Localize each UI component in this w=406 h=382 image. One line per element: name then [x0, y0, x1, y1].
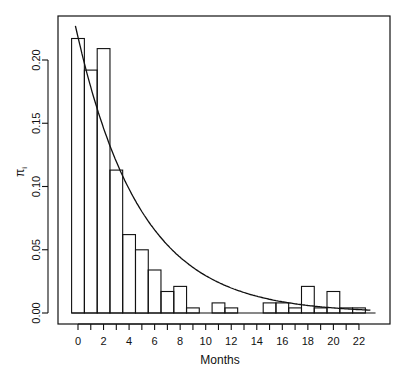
x-tick-label: 10: [200, 335, 212, 347]
y-tick-label: 0.20: [30, 49, 42, 70]
x-tick-label: 0: [75, 335, 81, 347]
y-axis-label: πi: [13, 167, 29, 177]
histogram-bar: [314, 308, 327, 313]
y-tick-label: 0.05: [30, 239, 42, 260]
y-axis: 0.000.050.100.150.20: [30, 49, 48, 323]
x-tick-label: 8: [177, 335, 183, 347]
histogram-bar: [148, 270, 161, 313]
histogram-bar: [110, 170, 123, 313]
histogram-bar: [289, 308, 302, 313]
x-tick-label: 4: [126, 335, 132, 347]
x-tick-label: 12: [225, 335, 237, 347]
histogram-bar: [72, 39, 85, 314]
histogram-bar: [327, 292, 340, 314]
histogram-bar: [302, 286, 315, 313]
histogram-bar: [123, 235, 136, 313]
histogram-bar: [187, 308, 200, 313]
bars-group: [72, 39, 366, 314]
x-tick-label: 2: [100, 335, 106, 347]
histogram-bar: [225, 308, 238, 313]
histogram-bar: [136, 250, 149, 313]
y-tick-label: 0.00: [30, 302, 42, 323]
x-tick-label: 16: [276, 335, 288, 347]
x-tick-label: 14: [251, 335, 263, 347]
histogram-bar: [161, 292, 174, 314]
histogram-bar: [84, 70, 97, 313]
x-axis: 0246810121416182022: [75, 324, 365, 347]
y-tick-label: 0.10: [30, 176, 42, 197]
x-tick-label: 18: [302, 335, 314, 347]
plot-frame: [58, 16, 390, 324]
x-tick-label: 20: [327, 335, 339, 347]
y-tick-label: 0.15: [30, 113, 42, 134]
histogram-bar: [97, 49, 110, 313]
histogram-bar: [276, 303, 289, 313]
histogram-bar: [212, 303, 225, 313]
svg-text:πi: πi: [13, 167, 29, 177]
fitted-curve: [75, 26, 370, 310]
x-axis-label: Months: [200, 353, 239, 367]
histogram-bar: [174, 286, 187, 313]
x-tick-label: 22: [353, 335, 365, 347]
x-tick-label: 6: [152, 335, 158, 347]
histogram-bar: [263, 303, 276, 313]
histogram-chart: 0.000.050.100.150.20 0246810121416182022…: [0, 0, 406, 382]
